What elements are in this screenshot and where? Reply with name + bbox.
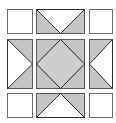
cell-bottom-right-plain [90,94,113,118]
cell-bottom-left-plain [8,94,33,118]
cell-center-square-in-square [37,40,85,89]
cell-middle-right-flying-geese [90,40,113,89]
quilt-block-diagram [0,0,116,123]
cell-top-left-plain [8,10,33,34]
cell-top-right-plain [90,10,113,34]
cell-middle-left-flying-geese [8,40,33,89]
cell-bottom-middle-flying-geese [37,94,85,118]
cell-top-middle-flying-geese [37,10,85,34]
